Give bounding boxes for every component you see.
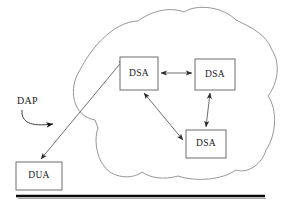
link-dsa1-dsa3 [144,93,183,140]
directory-diagram: DSA DSA DSA DUA DAP [0,0,286,204]
node-dsa-1-label: DSA [129,68,149,78]
link-dua-dsa1 [41,59,124,159]
directory-cloud-group [73,7,277,179]
node-dsa-1[interactable]: DSA [120,57,158,90]
dap-pointer-arrow [22,110,53,125]
node-dsa-3-label: DSA [196,138,216,148]
dap-label: DAP [17,95,38,106]
node-dsa-2[interactable]: DSA [195,59,235,90]
bottom-rule-group [16,196,266,198]
cloud-outline [73,7,277,179]
link-dsa2-dsa3 [206,93,210,127]
diagram-canvas: DSA DSA DSA DUA DAP [0,0,286,204]
node-dua-1-label: DUA [28,170,49,180]
node-dsa-3[interactable]: DSA [186,130,226,158]
node-dua-1[interactable]: DUA [16,162,62,190]
node-dsa-2-label: DSA [205,69,225,79]
